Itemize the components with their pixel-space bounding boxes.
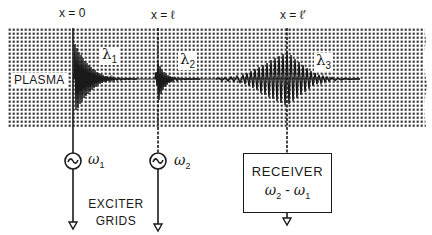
lambda-subscript: 2 (190, 59, 196, 70)
exciter-grids-label: EXCITER GRIDS (85, 196, 147, 230)
plasma-label: PLASMA (12, 73, 67, 87)
ground-arrow-1 (69, 222, 77, 229)
lambda-subscript: 3 (326, 60, 332, 71)
omega-subscript: 1 (305, 191, 310, 201)
exciter-frequency-label-1: ω1 (88, 152, 104, 170)
ac-source-icon-1 (65, 153, 81, 169)
omega-subscript: 2 (185, 161, 190, 171)
wavelength-label-3: λ3 (314, 53, 333, 71)
omega-subscript: 1 (99, 160, 104, 170)
wavelength-label-1: λ1 (100, 47, 119, 65)
lambda-symbol: λ (102, 45, 112, 63)
plasma-region (8, 27, 427, 128)
exciter-label-line2: GRIDS (85, 213, 147, 230)
omega-symbol: ω (174, 152, 185, 168)
position-label-x0: x = 0 (59, 7, 85, 19)
lambda-subscript: 1 (112, 54, 118, 65)
receiver-box: RECEIVER ω2 - ω1 (243, 153, 332, 213)
plasma-echo-diagram: x = 0 x = ℓ x = ℓ′ λ1 λ2 λ3 PLASMA ω1 ω2… (0, 0, 432, 235)
exciter-label-line1: EXCITER (85, 196, 147, 213)
omega-symbol: ω (294, 182, 305, 198)
omega-symbol: ω (265, 182, 276, 198)
receiver-frequency: ω2 - ω1 (244, 182, 331, 201)
lambda-symbol: λ (180, 50, 190, 68)
lambda-symbol: λ (316, 51, 326, 69)
position-label-xl: x = ℓ (151, 9, 175, 21)
wavelength-label-2: λ2 (178, 52, 197, 70)
receiver-title: RECEIVER (244, 164, 331, 179)
minus-sign: - (281, 182, 293, 198)
ac-source-icon-2 (150, 153, 166, 169)
ground-arrow-2 (154, 224, 162, 231)
ground-arrow-3 (283, 218, 291, 225)
omega-symbol: ω (88, 151, 99, 167)
diagram-canvas (0, 0, 432, 235)
position-label-xlprime: x = ℓ′ (280, 9, 306, 21)
exciter-frequency-label-2: ω2 (174, 153, 190, 171)
